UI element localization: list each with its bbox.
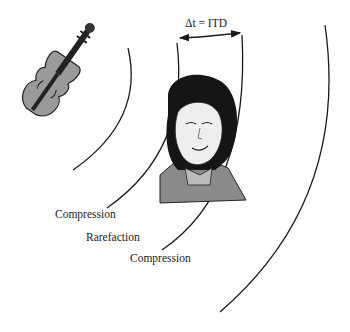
- label-compression-2: Compression: [130, 252, 191, 264]
- label-compression-1: Compression: [55, 208, 116, 220]
- wavefront-arc-1: [73, 48, 131, 170]
- sound-wave-diagram: [0, 0, 350, 332]
- wavefront-arc-4: [220, 25, 329, 312]
- itd-arrow: [180, 37, 200, 38]
- itd-label: Δt = ITD: [185, 17, 227, 29]
- woman-head-icon: [160, 75, 246, 203]
- label-rarefaction: Rarefaction: [86, 231, 140, 243]
- violin-icon: [16, 13, 108, 122]
